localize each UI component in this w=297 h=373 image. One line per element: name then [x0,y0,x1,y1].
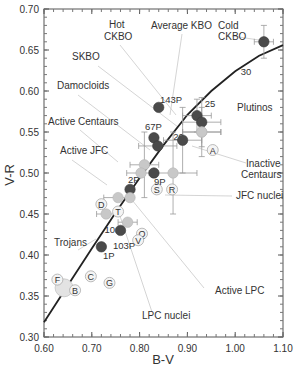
curve-tick-label: 25 [205,98,216,109]
chart-svg: 0.600.700.800.901.001.100.300.350.400.45… [0,0,297,373]
letter-marker-label: D [98,200,105,210]
annotation-label: Damocloids [57,80,109,91]
point-trojans [101,209,111,219]
letter-marker-label: V [135,236,141,246]
point-inactive-centaurs [197,127,207,137]
leader-line [165,195,232,196]
annotation-label: CKBO [104,31,133,42]
data-points [55,37,269,297]
y-tick-label: 0.45 [20,209,40,220]
x-tick-label: 1.00 [225,343,245,354]
x-axis-title: B-V [152,352,174,367]
annotation-label: Active JFC [60,145,108,156]
x-tick-label: 1.10 [273,343,293,354]
point-active-jfc-2- [125,192,135,202]
letter-marker-label: A [210,146,216,156]
color-color-chart: 0.600.700.800.901.001.100.300.350.400.45… [0,0,297,373]
point-jfc-nuclei [168,168,178,178]
leader-line [118,210,152,312]
letter-marker-label: G [106,278,113,288]
comet-label: 67P [145,121,162,132]
y-tick-label: 0.60 [20,86,40,97]
comet-label: 9P [154,176,166,187]
letter-marker-label: C [88,272,95,282]
x-tick-label: 0.70 [82,343,102,354]
leader-line [72,160,107,185]
y-tick-label: 0.70 [20,4,40,15]
annotation-label: SKBO [72,51,100,62]
annotation-label: JFC nuclei [236,190,283,201]
point-103p [115,225,125,235]
x-tick-label: 0.90 [178,343,198,354]
annotation-label: Plutinos [237,102,273,113]
leader-line [132,200,204,288]
annotation-label: Inactive [246,158,281,169]
y-tick-label: 0.30 [20,332,40,343]
point-damocloids [153,141,163,151]
y-tick-label: 0.65 [20,45,40,56]
annotation-label: Centaurs [241,169,282,180]
y-tick-label: 0.55 [20,127,40,138]
annotation-label: Hot [109,19,125,30]
annotations: 143P67P2P9P103P1PHotCKBOAverage KBOColdC… [48,19,283,321]
letter-marker-label: F [55,275,61,285]
annotation-label: CKBO [218,31,247,42]
annotation-label: Cold [218,20,239,31]
annotation-label: Trojans [54,237,87,248]
annotation-label: Average KBO [151,20,212,31]
x-tick-label: 0.60 [34,343,54,354]
annotation-label: Active Centaurs [48,116,119,127]
curve-tick-label: 30 [241,66,252,77]
point-active-jfc [113,192,123,202]
comet-label: 1P [103,250,115,261]
comet-label: 143P [160,94,182,105]
annotation-label: LPC nuclei [142,310,190,321]
point-active-lpc [122,217,132,227]
x-tick-label: 0.80 [130,343,150,354]
y-tick-label: 0.50 [20,168,40,179]
letter-marker-label: T [115,207,121,217]
point-skbo [177,135,187,145]
point-average-kbo [197,117,207,127]
point-cold-ckbo [259,37,269,47]
comet-label: 2P [128,174,140,185]
curve-tick-label: 10 [104,224,115,235]
y-tick-label: 0.40 [20,250,40,261]
y-tick-label: 0.35 [20,291,40,302]
y-axis-title: V-R [2,164,17,186]
comet-label: 103P [113,240,135,251]
annotation-label: Active LPC [215,285,264,296]
leader-line [192,146,246,163]
letter-marker-label: B [72,286,78,296]
letter-marker-label: R [169,185,176,195]
